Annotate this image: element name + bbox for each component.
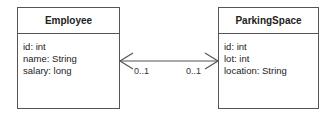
multiplicity-parking-end: 0..1: [186, 66, 201, 76]
association-line: [0, 0, 334, 117]
multiplicity-employee-end: 0..1: [134, 66, 149, 76]
